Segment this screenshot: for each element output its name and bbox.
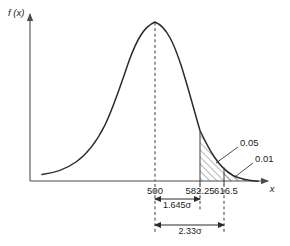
area-label-0-01: 0.01 (255, 153, 274, 164)
x-tick-label-616-5: 616.5 (214, 185, 238, 196)
normal-curve (42, 22, 258, 181)
leader-line-0-05 (216, 147, 238, 163)
y-axis-label: f (x) (8, 7, 24, 18)
x-axis-label: x (269, 183, 276, 194)
leader-line-0-01 (236, 163, 253, 176)
area-label-0-05: 0.05 (240, 137, 259, 148)
dimension-label-233-sigma: 2.33σ (178, 226, 202, 236)
figure-container: f (x) x 500 582.25 616.5 0.05 0.01 1.645… (0, 0, 290, 246)
normal-distribution-figure: f (x) x 500 582.25 616.5 0.05 0.01 1.645… (0, 0, 290, 246)
x-tick-label-582-25: 582.25 (185, 185, 214, 196)
dimension-label-1645-sigma: 1.645σ (163, 200, 192, 210)
x-tick-label-500: 500 (147, 185, 163, 196)
